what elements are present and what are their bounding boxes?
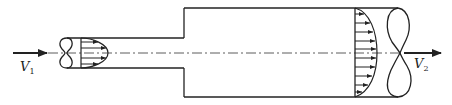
outlet-velocity-label: V2 xyxy=(414,56,428,73)
inlet-velocity-label: V1 xyxy=(20,59,34,76)
diagram-canvas: V1 V2 xyxy=(0,0,452,105)
pipe-expansion-diagram: V1 V2 xyxy=(0,0,452,105)
outlet-velocity-profile xyxy=(355,8,377,97)
